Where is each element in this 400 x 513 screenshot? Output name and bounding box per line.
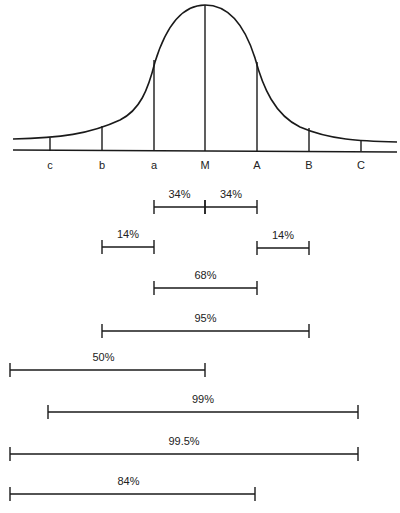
- marker-A: A: [253, 62, 261, 171]
- bracket-label: 99%: [192, 393, 214, 405]
- bracket-68: 68%: [154, 269, 257, 295]
- bracket-label: 95%: [194, 312, 216, 324]
- marker-B: B: [305, 128, 312, 171]
- marker-b: b: [99, 126, 105, 171]
- bracket-label: 99.5%: [168, 435, 199, 447]
- bracket-50: 50%: [10, 351, 205, 377]
- marker-M: M: [200, 5, 209, 171]
- marker-label: c: [47, 159, 53, 171]
- marker-a: a: [151, 60, 158, 171]
- marker-label: B: [305, 159, 312, 171]
- bracket-label: 14%: [117, 228, 139, 240]
- marker-label: b: [99, 159, 105, 171]
- bracket-label: 68%: [194, 269, 216, 281]
- marker-label: M: [200, 159, 209, 171]
- bracket-label: 34%: [168, 188, 190, 200]
- marker-label: A: [253, 159, 261, 171]
- bracket-99: 99%: [48, 393, 358, 419]
- marker-c: c: [47, 138, 53, 171]
- bracket-95: 95%: [102, 312, 309, 338]
- bracket-label: 34%: [220, 188, 242, 200]
- bracket-14: 14%: [257, 229, 309, 255]
- bracket-label: 50%: [92, 351, 114, 363]
- bracket-34: 34%: [154, 188, 205, 214]
- sd-markers: cbaMABC: [47, 5, 365, 171]
- normal-distribution-diagram: cbaMABC 34%34%14%14%68%95%50%99%99.5%84%: [0, 0, 400, 513]
- bracket-84: 84%: [10, 475, 255, 501]
- percentage-brackets: 34%34%14%14%68%95%50%99%99.5%84%: [10, 188, 358, 501]
- marker-C: C: [357, 140, 365, 171]
- bracket-label: 14%: [272, 229, 294, 241]
- bracket-34: 34%: [205, 188, 257, 214]
- bracket-14: 14%: [102, 228, 154, 254]
- bracket-995: 99.5%: [10, 435, 358, 461]
- bracket-label: 84%: [117, 475, 139, 487]
- marker-label: C: [357, 159, 365, 171]
- marker-label: a: [151, 159, 158, 171]
